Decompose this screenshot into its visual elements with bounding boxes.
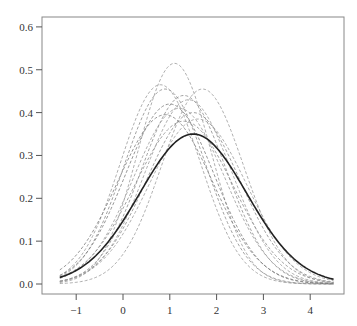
x-tick-label: 0: [120, 304, 126, 316]
x-tick-label: −1: [70, 304, 82, 316]
x-axis: −101234: [70, 294, 313, 316]
y-axis: 0.00.10.20.30.40.50.6: [19, 21, 42, 290]
sample-density-curve: [60, 89, 334, 284]
density-chart: 0.00.10.20.30.40.50.6 −101234: [0, 0, 357, 326]
y-tick-label: 0.4: [19, 107, 33, 119]
x-tick-label: 4: [307, 304, 313, 316]
density-curves: [60, 63, 334, 284]
y-tick-label: 0.6: [19, 21, 33, 33]
x-tick-label: 3: [261, 304, 267, 316]
y-tick-label: 0.0: [19, 278, 33, 290]
x-tick-label: 1: [167, 304, 173, 316]
sample-density-curve: [60, 89, 334, 283]
y-tick-label: 0.2: [19, 192, 33, 204]
sample-density-curve: [60, 85, 334, 284]
y-tick-label: 0.3: [19, 149, 33, 161]
y-tick-label: 0.5: [19, 64, 33, 76]
reference-density-curve: [60, 134, 334, 279]
x-tick-label: 2: [214, 304, 220, 316]
y-tick-label: 0.1: [19, 235, 33, 247]
